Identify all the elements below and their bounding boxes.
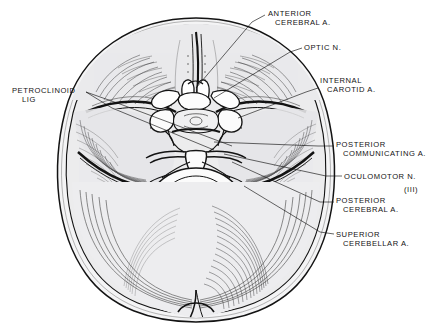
label-line-1: ANTERIOR xyxy=(268,9,312,18)
label-line-1: (III) xyxy=(404,185,418,194)
label-line-1: POSTERIOR xyxy=(336,140,386,149)
label-oculomotor-n-numeral: (III) xyxy=(404,185,418,194)
label-optic-n: OPTIC N. xyxy=(304,43,341,52)
label-line-1: POSTERIOR xyxy=(336,196,386,205)
anatomical-illustration xyxy=(0,0,442,333)
label-anterior-cerebral-a: ANTERIORCEREBRAL A. xyxy=(268,9,331,28)
label-line-2: LIG xyxy=(12,95,76,104)
label-line-1: SUPERIOR xyxy=(336,230,380,239)
label-line-2: CEREBELLAR A. xyxy=(336,239,409,248)
label-posterior-communicating-a: POSTERIORCOMMUNICATING A. xyxy=(336,140,426,159)
label-posterior-cerebral-a: POSTERIORCEREBRAL A. xyxy=(336,196,399,215)
label-line-2: COMMUNICATING A. xyxy=(336,149,426,158)
label-petroclinoid-lig: PETROCLINOIDLIG xyxy=(12,86,76,105)
label-line-2: CAROTID A. xyxy=(320,85,376,94)
label-line-1: INTERNAL xyxy=(320,76,362,85)
label-line-1: OCULOMOTOR N. xyxy=(344,172,416,181)
label-internal-carotid-a: INTERNALCAROTID A. xyxy=(320,76,376,95)
label-line-1: PETROCLINOID xyxy=(12,86,76,95)
label-line-2: CEREBRAL A. xyxy=(336,205,399,214)
label-oculomotor-n: OCULOMOTOR N. xyxy=(344,172,416,181)
label-superior-cerebellar-a: SUPERIORCEREBELLAR A. xyxy=(336,230,409,249)
cranial-base-drawing xyxy=(0,0,442,333)
label-line-1: OPTIC N. xyxy=(304,43,341,52)
label-line-2: CEREBRAL A. xyxy=(268,18,331,27)
